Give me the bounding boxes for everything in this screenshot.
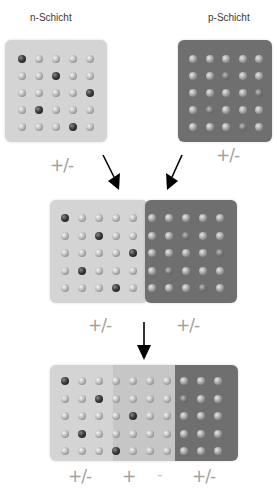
atom-dot	[95, 267, 103, 275]
atom-dot	[197, 430, 205, 438]
atom-dot	[189, 55, 197, 63]
atom-dot	[180, 447, 188, 455]
atom-dot	[197, 447, 205, 455]
atom-dot	[69, 55, 77, 63]
atom-dot	[199, 284, 207, 292]
atom-dot	[146, 447, 154, 455]
atom-dot	[239, 89, 247, 97]
atom-dot	[163, 395, 171, 403]
electron-dot	[78, 430, 86, 438]
atom-dot	[129, 395, 137, 403]
atom-dot	[239, 106, 247, 114]
atom-dot	[95, 214, 103, 222]
atom-dot	[239, 72, 247, 80]
atom-dot	[189, 89, 197, 97]
atom-dot	[165, 249, 173, 257]
electron-dot	[69, 123, 77, 131]
atom-dot	[197, 395, 205, 403]
atom-dot	[95, 249, 103, 257]
atom-dot	[163, 412, 171, 420]
atom-dot	[18, 72, 26, 80]
atom-dot	[95, 447, 103, 455]
atom-dot	[61, 267, 69, 275]
atom-dot	[222, 55, 230, 63]
atom-dot	[112, 232, 120, 240]
atom-dot	[148, 214, 156, 222]
atom-dot	[35, 72, 43, 80]
atom-dot	[199, 232, 207, 240]
atom-dot	[239, 123, 247, 131]
atom-dot	[129, 377, 137, 385]
bottom-n-charge: +/-	[68, 466, 91, 486]
atom-dot	[52, 89, 60, 97]
atom-dot	[255, 55, 263, 63]
atom-dot	[95, 430, 103, 438]
atom-dot	[112, 430, 120, 438]
atom-dot	[78, 232, 86, 240]
atom-dot	[239, 55, 247, 63]
depletion-plus-charge: +	[122, 466, 135, 486]
electron-dot	[18, 55, 26, 63]
atom-dot	[214, 412, 222, 420]
atom-dot	[148, 232, 156, 240]
electron-dot	[35, 106, 43, 114]
atom-dot	[206, 106, 214, 114]
atom-dot	[129, 232, 137, 240]
atom-dot	[35, 89, 43, 97]
atom-dot	[214, 447, 222, 455]
atom-dot	[214, 377, 222, 385]
atom-dot	[78, 377, 86, 385]
atom-dot	[146, 377, 154, 385]
atom-dot	[61, 249, 69, 257]
atom-dot	[255, 106, 263, 114]
atom-dot	[129, 214, 137, 222]
atom-dot	[222, 89, 230, 97]
atom-dot	[222, 123, 230, 131]
atom-dot	[206, 89, 214, 97]
atom-dot	[148, 267, 156, 275]
electron-dot	[61, 377, 69, 385]
atom-dot	[199, 249, 207, 257]
depletion-minus-charge: -	[157, 466, 161, 484]
atom-dot	[69, 106, 77, 114]
atom-dot	[189, 106, 197, 114]
atom-dot	[165, 267, 173, 275]
atom-dot	[61, 447, 69, 455]
electron-dot	[61, 214, 69, 222]
atom-dot	[216, 267, 224, 275]
atom-dot	[61, 284, 69, 292]
electron-dot	[95, 232, 103, 240]
electron-dot	[52, 72, 60, 80]
atom-dot	[216, 214, 224, 222]
electron-dot	[95, 395, 103, 403]
atom-dot	[112, 214, 120, 222]
atom-dot	[112, 412, 120, 420]
atom-dot	[52, 123, 60, 131]
atom-dot	[112, 267, 120, 275]
electron-dot	[129, 412, 137, 420]
atom-dot	[189, 72, 197, 80]
atom-dot	[146, 395, 154, 403]
atom-dot	[61, 232, 69, 240]
atom-dot	[129, 284, 137, 292]
atom-dot	[165, 214, 173, 222]
atom-dot	[61, 430, 69, 438]
atom-dot	[146, 430, 154, 438]
atom-dot	[35, 55, 43, 63]
atom-dot	[148, 284, 156, 292]
atom-dot	[86, 106, 94, 114]
electron-dot	[86, 89, 94, 97]
atom-dot	[18, 89, 26, 97]
atom-dot	[52, 106, 60, 114]
atom-dot	[86, 55, 94, 63]
atom-dot	[18, 123, 26, 131]
atom-dot	[61, 395, 69, 403]
atom-dot	[206, 123, 214, 131]
atom-dot	[180, 412, 188, 420]
atom-dot	[129, 430, 137, 438]
electron-dot	[112, 447, 120, 455]
atom-dot	[95, 284, 103, 292]
atom-dot	[216, 249, 224, 257]
atom-dot	[182, 232, 190, 240]
atom-dot	[163, 377, 171, 385]
